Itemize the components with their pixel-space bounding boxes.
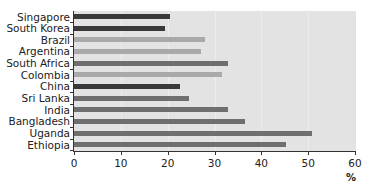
category-label: South Africa bbox=[6, 57, 70, 69]
category-label: Brazil bbox=[41, 34, 70, 46]
category-label: India bbox=[44, 104, 70, 116]
y-axis-line bbox=[73, 11, 74, 152]
bar-ethiopia bbox=[74, 142, 286, 147]
x-axis-tick bbox=[74, 151, 75, 155]
x-axis-tick bbox=[168, 151, 169, 155]
category-label: Sri Lanka bbox=[21, 92, 70, 104]
x-axis-unit-label: % bbox=[346, 172, 356, 183]
x-axis-tick bbox=[308, 151, 309, 155]
x-axis-tick-label: 0 bbox=[59, 157, 89, 169]
category-label: Bangladesh bbox=[8, 115, 70, 127]
bar-south-korea bbox=[74, 26, 165, 31]
x-axis-tick-label: 40 bbox=[246, 157, 276, 169]
category-label: Ethiopia bbox=[27, 139, 70, 151]
x-axis-tick-label: 50 bbox=[293, 157, 323, 169]
category-label: China bbox=[40, 80, 70, 92]
category-label: Colombia bbox=[21, 69, 70, 81]
category-label: Uganda bbox=[29, 127, 70, 139]
bar-singapore bbox=[74, 14, 170, 19]
category-label: South Korea bbox=[6, 22, 70, 34]
x-axis-tick bbox=[121, 151, 122, 155]
horizontal-bar-chart: SingaporeSouth KoreaBrazilArgentinaSouth… bbox=[0, 0, 368, 188]
bar-sri-lanka bbox=[74, 96, 189, 101]
bar-brazil bbox=[74, 37, 205, 42]
category-label: Singapore bbox=[17, 11, 70, 23]
x-axis-tick bbox=[261, 151, 262, 155]
x-axis-tick-label: 60 bbox=[340, 157, 368, 169]
x-axis-tick-label: 20 bbox=[153, 157, 183, 169]
category-label: Argentina bbox=[19, 45, 70, 57]
bar-china bbox=[74, 84, 180, 89]
bar-india bbox=[74, 107, 228, 112]
bar-uganda bbox=[74, 131, 312, 136]
bar-south-africa bbox=[74, 61, 228, 66]
bar-colombia bbox=[74, 72, 222, 77]
x-axis-tick-label: 30 bbox=[200, 157, 230, 169]
x-axis-tick bbox=[355, 151, 356, 155]
x-axis-tick bbox=[215, 151, 216, 155]
bar-bangladesh bbox=[74, 119, 245, 124]
x-axis-tick-label: 10 bbox=[106, 157, 136, 169]
bar-argentina bbox=[74, 49, 201, 54]
